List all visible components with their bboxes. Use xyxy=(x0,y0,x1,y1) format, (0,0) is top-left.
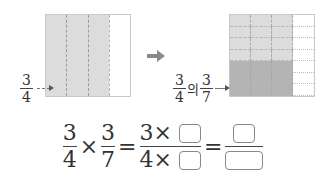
light-shaded-cell xyxy=(251,50,272,62)
right-label: 3 4 의 3 7 xyxy=(173,73,213,104)
answer-box-result-numerator[interactable] xyxy=(233,124,255,143)
equals-sign: = xyxy=(204,134,222,159)
numerator: 3 xyxy=(20,73,33,87)
numerator: 3× xyxy=(140,122,201,144)
dark-shaded-cell xyxy=(230,84,251,96)
denominator-prefix: 4× xyxy=(140,147,172,172)
dark-shaded-cell xyxy=(251,61,272,73)
numerator-prefix: 3× xyxy=(140,120,172,145)
light-shaded-cell xyxy=(230,15,251,27)
unshaded-cell xyxy=(293,27,314,39)
numerator: 3 xyxy=(63,122,77,144)
numerator: 3 xyxy=(200,73,213,87)
dark-shaded-cell xyxy=(251,73,272,85)
light-shaded-cell xyxy=(272,15,293,27)
light-shaded-cell xyxy=(272,38,293,50)
dark-shaded-cell xyxy=(230,73,251,85)
answer-box-numerator-multiplier[interactable] xyxy=(179,124,201,143)
unshaded-cell xyxy=(293,50,314,62)
left-pointer-arrowhead-icon xyxy=(49,85,54,91)
denominator: 7 xyxy=(200,90,213,104)
numerator xyxy=(233,122,255,144)
denominator xyxy=(225,149,263,171)
right-arrow-icon xyxy=(147,50,165,62)
right-pointer-arrowhead-icon xyxy=(225,85,230,91)
light-shaded-cell xyxy=(230,27,251,39)
dark-shaded-cell xyxy=(251,84,272,96)
light-shaded-cell xyxy=(272,50,293,62)
equation-fraction-1: 3 4 xyxy=(63,122,77,171)
equation-fraction-2: 3 7 xyxy=(101,122,115,171)
denominator: 4× xyxy=(140,149,201,171)
unshaded-cell xyxy=(293,38,314,50)
unshaded-cell xyxy=(293,15,314,27)
light-shaded-cell xyxy=(251,27,272,39)
left-label-fraction: 3 4 xyxy=(20,73,33,104)
dark-shaded-cell xyxy=(272,61,293,73)
light-shaded-cell xyxy=(251,38,272,50)
shaded-column xyxy=(88,15,109,96)
dark-shaded-cell xyxy=(230,61,251,73)
answer-box-denominator-multiplier[interactable] xyxy=(179,151,201,170)
right-label-fraction-1: 3 4 xyxy=(173,73,186,104)
right-label-fraction-2: 3 7 xyxy=(200,73,213,104)
denominator: 4 xyxy=(20,90,33,104)
denominator: 7 xyxy=(101,149,115,171)
light-shaded-cell xyxy=(230,38,251,50)
numerator: 3 xyxy=(101,122,115,144)
multiplication-equation: 3 4 × 3 7 = 3× 4× = xyxy=(0,113,326,179)
equals-sign: = xyxy=(118,134,136,159)
dark-shaded-cell xyxy=(272,73,293,85)
unshaded-cell xyxy=(293,61,314,73)
denominator: 4 xyxy=(63,149,77,171)
denominator: 4 xyxy=(173,90,186,104)
light-shaded-cell xyxy=(272,27,293,39)
shaded-column xyxy=(46,15,66,96)
left-fraction-model xyxy=(45,14,131,97)
answer-box-result-denominator[interactable] xyxy=(225,151,263,170)
unshaded-cell xyxy=(293,73,314,85)
light-shaded-cell xyxy=(230,50,251,62)
dark-shaded-cell xyxy=(272,84,293,96)
equation-result-fraction xyxy=(225,122,263,171)
right-fraction-model xyxy=(229,14,315,97)
unshaded-column xyxy=(109,15,130,96)
unshaded-cell xyxy=(293,84,314,96)
shaded-column xyxy=(66,15,87,96)
connector-text: 의 xyxy=(187,79,199,98)
fraction-bar xyxy=(225,146,263,147)
times-sign: × xyxy=(80,134,98,159)
numerator: 3 xyxy=(173,73,186,87)
equation-fraction-3: 3× 4× xyxy=(140,122,201,171)
light-shaded-cell xyxy=(251,15,272,27)
